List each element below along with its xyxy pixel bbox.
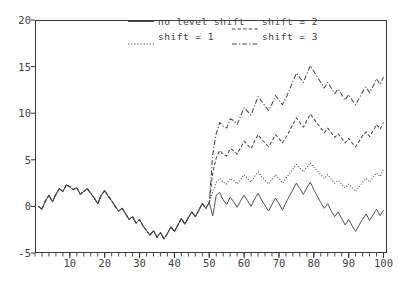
chart-figure: 20151050-5 102030405060708090100 no leve… [0,0,412,283]
x-tick-label: 70 [262,258,296,269]
chart-legend: no level shift shift = 2 shift = 1 shift… [128,14,360,44]
legend-swatch-dotted-icon [128,33,154,41]
y-tick-label: 20 [3,15,31,26]
legend-swatch-solid-icon [128,18,154,26]
legend-label: shift = 2 [262,16,318,27]
y-tick-label: 0 [3,201,31,212]
x-tick-label: 90 [332,258,366,269]
legend-swatch-dashed-icon [232,18,258,26]
y-tick-label: 15 [3,62,31,73]
x-tick-label: 40 [157,258,191,269]
x-tick-label: 60 [227,258,261,269]
legend-label: shift = 1 [158,31,214,42]
legend-label: shift = 3 [262,31,318,42]
x-tick-label: 50 [192,258,226,269]
x-axis-labels: 102030405060708090100 [0,258,412,274]
legend-entry-shift-1: shift = 1 [128,29,232,44]
plot-area-frame [35,20,387,253]
y-tick-label: 10 [3,108,31,119]
legend-entry-no-level-shift: no level shift [128,14,232,29]
y-tick-label: -5 [3,248,31,259]
x-tick-label: 80 [297,258,331,269]
x-tick-label: 20 [88,258,122,269]
x-tick-label: 10 [53,258,87,269]
legend-entry-shift-2: shift = 2 [232,14,352,29]
x-tick-label: 100 [367,258,401,269]
legend-swatch-dashdot-icon [232,33,258,41]
y-axis-labels: 20151050-5 [0,0,31,283]
x-tick-label: 30 [123,258,157,269]
y-tick-label: 5 [3,155,31,166]
